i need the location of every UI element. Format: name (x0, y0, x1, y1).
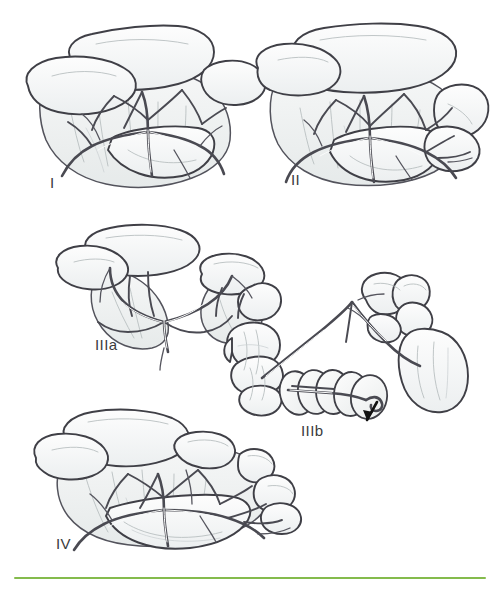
panel-label-iiia: IIIa (95, 337, 117, 352)
panel-label-iiib: IIIb (301, 423, 323, 438)
panel-label-i: I (50, 175, 55, 190)
figure-root: .out { fill:url(#lobeFill); stroke:#3f3f… (0, 0, 500, 589)
panel-label-ii: II (291, 172, 300, 187)
panel-2-illustration (256, 24, 488, 186)
anatomical-illustration: .out { fill:url(#lobeFill); stroke:#3f3f… (0, 0, 500, 589)
footer-divider (14, 577, 486, 579)
panel-label-iv: IV (56, 536, 71, 551)
panel-4-illustration (34, 410, 301, 550)
volvulus-coils (275, 368, 390, 422)
panel-1-illustration (26, 25, 265, 187)
